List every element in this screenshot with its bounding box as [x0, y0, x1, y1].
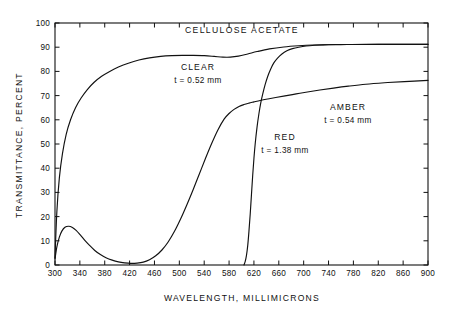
x-tick-label: 460	[147, 269, 162, 278]
x-tick-label: 620	[247, 269, 262, 278]
chart-title: CELLULOSE ACETATE	[185, 25, 299, 35]
x-tick-label: 420	[122, 269, 137, 278]
y-tick-label: 30	[40, 188, 50, 197]
x-tick-label: 340	[73, 269, 88, 278]
y-tick-label: 20	[40, 213, 50, 222]
x-tick-label: 540	[197, 269, 212, 278]
transmittance-chart: 3003403804204605005405806206607007407808…	[0, 0, 453, 318]
y-tick-label: 50	[40, 140, 50, 149]
x-axis-title: WAVELENGTH, MILLIMICRONS	[164, 293, 320, 303]
y-tick-label: 40	[40, 164, 50, 173]
x-tick-label: 820	[371, 269, 386, 278]
y-tick-label: 0	[45, 261, 50, 270]
x-axis-tick-labels: 3003403804204605005405806206607007407808…	[48, 269, 436, 278]
y-axis-ticks	[55, 23, 428, 265]
y-tick-label: 70	[40, 92, 50, 101]
y-tick-label: 100	[36, 19, 51, 28]
x-tick-label: 380	[98, 269, 113, 278]
x-tick-label: 900	[421, 269, 436, 278]
y-tick-label: 80	[40, 67, 50, 76]
curve-clear	[55, 44, 428, 257]
curve-amber	[55, 80, 428, 263]
annotation-thickness-amber: t = 0.54 mm	[324, 116, 371, 125]
annotation-thickness-red: t = 1.38 mm	[261, 146, 308, 155]
x-tick-label: 660	[272, 269, 287, 278]
y-tick-label: 10	[40, 237, 50, 246]
y-axis-tick-labels: 0102030405060708090100	[36, 19, 51, 270]
y-tick-label: 60	[40, 116, 50, 125]
annotation-label-red: RED	[274, 132, 295, 142]
curve-annotations: CLEARt = 0.52 mmAMBERt = 0.54 mmREDt = 1…	[174, 62, 371, 155]
x-tick-label: 300	[48, 269, 63, 278]
x-tick-label: 740	[321, 269, 336, 278]
x-axis-ticks	[55, 23, 428, 265]
x-tick-label: 580	[222, 269, 237, 278]
plot-frame	[55, 23, 428, 265]
figure-container: 3003403804204605005405806206607007407808…	[0, 0, 453, 318]
x-tick-label: 860	[396, 269, 411, 278]
x-tick-label: 700	[297, 269, 312, 278]
y-tick-label: 90	[40, 43, 50, 52]
x-tick-label: 780	[346, 269, 361, 278]
annotation-label-clear: CLEAR	[181, 62, 215, 72]
annotation-thickness-clear: t = 0.52 mm	[174, 76, 221, 85]
x-tick-label: 500	[172, 269, 187, 278]
y-axis-title: TRANSMITTANCE, PERCENT	[14, 72, 24, 218]
data-curves	[55, 44, 428, 265]
annotation-label-amber: AMBER	[330, 102, 366, 112]
